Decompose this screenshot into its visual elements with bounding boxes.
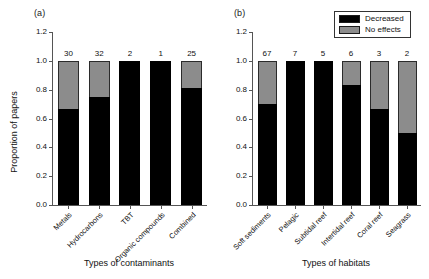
panel-a-axis-extension: [52, 32, 53, 62]
legend-swatch-no-effects-icon: [339, 26, 360, 34]
x-axis-tick: [161, 205, 162, 209]
bar-sample-size-label: 3: [377, 50, 381, 58]
y-axis-tick-label: 1.2: [236, 28, 247, 36]
bar-segment-decreased: [89, 97, 110, 205]
bar-segment-decreased: [314, 61, 333, 205]
bar-column: 6Intertidal reef: [342, 61, 361, 205]
bar-sample-size-label: 6: [349, 50, 353, 58]
x-axis-tick-label: Combined: [167, 211, 196, 240]
bar-column: 32Hydrocarbons: [89, 61, 110, 205]
bar-sample-size-label: 67: [263, 50, 272, 58]
x-axis-tick: [295, 205, 296, 209]
bar-sample-size-label: 1: [159, 50, 163, 58]
y-axis-tick: [49, 32, 53, 33]
legend-swatch-decreased-icon: [339, 15, 360, 23]
legend-entry-no-effects: No effects: [339, 26, 404, 34]
y-axis-tick-label: 0.2: [236, 172, 247, 180]
bar-sample-size-label: 25: [187, 50, 196, 58]
panel-b: (b) 0.00.20.40.60.81.01.2 67Soft sedimen…: [214, 0, 429, 279]
bar-segment-decreased: [342, 85, 361, 205]
y-axis-tick: [249, 32, 253, 33]
bar-sample-size-label: 7: [293, 50, 297, 58]
x-axis-tick-label: Soft sediments: [232, 211, 272, 251]
figure-stacked-bar-charts: (a) 0.00.20.40.60.81.01.2 30Metals32Hydr…: [0, 0, 429, 279]
y-axis-tick-label: 1.0: [36, 57, 47, 65]
x-axis-tick-label: Metals: [53, 211, 74, 232]
y-axis-tick-label: 0.4: [236, 143, 247, 151]
bar-segment-no-effects: [89, 61, 110, 97]
y-axis-tick-label: 0.8: [36, 86, 47, 94]
bar-column: 2TBT: [119, 61, 140, 205]
bar-segment-no-effects: [398, 61, 417, 133]
bar-segment-no-effects: [370, 61, 389, 109]
y-axis-tick-label: 0.8: [236, 86, 247, 94]
bar-sample-size-label: 32: [95, 50, 104, 58]
x-axis-tick: [407, 205, 408, 209]
bar-sample-size-label: 5: [321, 50, 325, 58]
legend-label-no-effects: No effects: [365, 26, 401, 34]
panel-b-bar-group: 67Soft sediments7Pelagic5Subtidal reef6I…: [253, 61, 421, 205]
x-axis-tick: [379, 205, 380, 209]
legend-label-decreased: Decreased: [365, 15, 404, 23]
bar-sample-size-label: 2: [405, 50, 409, 58]
bar-column: 3Coral reef: [370, 61, 389, 205]
y-axis-tick-label: 0.6: [36, 115, 47, 123]
bar-column: 25Combined: [181, 61, 202, 205]
bar-segment-decreased: [181, 88, 202, 205]
bar-segment-no-effects: [258, 61, 277, 104]
y-axis-tick-label: 0.6: [236, 115, 247, 123]
y-axis-tick-label: 0.2: [36, 172, 47, 180]
panel-a-plot-area: 0.00.20.40.60.81.01.2 30Metals32Hydrocar…: [52, 61, 207, 206]
bar-segment-no-effects: [342, 61, 361, 85]
x-axis-tick: [267, 205, 268, 209]
legend-entry-decreased: Decreased: [339, 15, 404, 23]
y-axis-tick-label: 0.4: [36, 143, 47, 151]
x-axis-tick-label: TBT: [120, 211, 135, 226]
bar-segment-no-effects: [58, 61, 79, 109]
panel-a-y-axis-title: Proportion of papers: [9, 91, 19, 173]
bar-segment-decreased: [258, 104, 277, 205]
legend: Decreased No effects: [334, 11, 411, 38]
y-axis-tick-label: 1.0: [236, 57, 247, 65]
x-axis-tick: [192, 205, 193, 209]
x-axis-tick: [351, 205, 352, 209]
y-axis-tick-label: 0.0: [36, 201, 47, 209]
bar-column: 7Pelagic: [286, 61, 305, 205]
x-axis-tick: [68, 205, 69, 209]
bar-segment-decreased: [58, 109, 79, 205]
y-axis-tick-label: 0.0: [236, 201, 247, 209]
bar-segment-decreased: [370, 109, 389, 205]
bar-segment-decreased: [286, 61, 305, 205]
x-axis-tick-label: Coral reef: [356, 211, 385, 240]
x-axis-tick: [130, 205, 131, 209]
bar-column: 1Organic compounds: [150, 61, 171, 205]
bar-column: 5Subtidal reef: [314, 61, 333, 205]
y-axis-tick: [249, 205, 253, 206]
panel-a: (a) 0.00.20.40.60.81.01.2 30Metals32Hydr…: [0, 0, 215, 279]
y-axis-tick: [49, 205, 53, 206]
panel-a-x-axis-title: Types of contaminants: [52, 258, 206, 268]
bar-segment-decreased: [398, 133, 417, 205]
x-axis-tick-label: Pelagic: [278, 211, 301, 234]
panel-b-tag: (b): [234, 8, 245, 18]
bar-column: 30Metals: [58, 61, 79, 205]
x-axis-tick-label: Seagrass: [385, 211, 413, 239]
y-axis-tick-label: 1.2: [36, 28, 47, 36]
x-axis-tick: [99, 205, 100, 209]
bar-sample-size-label: 2: [128, 50, 132, 58]
bar-segment-decreased: [119, 61, 140, 205]
panel-a-bar-group: 30Metals32Hydrocarbons2TBT1Organic compo…: [53, 61, 207, 205]
bar-segment-no-effects: [181, 61, 202, 88]
bar-segment-decreased: [150, 61, 171, 205]
panel-b-x-axis-title: Types of habitats: [252, 258, 420, 268]
panel-b-plot-area: 0.00.20.40.60.81.01.2 67Soft sediments7P…: [252, 61, 421, 206]
panel-b-axis-extension: [252, 32, 253, 62]
x-axis-tick: [323, 205, 324, 209]
bar-column: 2Seagrass: [398, 61, 417, 205]
bar-sample-size-label: 30: [64, 50, 73, 58]
bar-column: 67Soft sediments: [258, 61, 277, 205]
panel-a-tag: (a): [34, 8, 45, 18]
